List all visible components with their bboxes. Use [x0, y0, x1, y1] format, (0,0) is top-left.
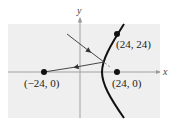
- point-left-focus: [41, 69, 47, 75]
- label-left-focus: (−24, 0): [24, 77, 60, 90]
- point-curve: [114, 31, 120, 37]
- label-curve-point: (24, 24): [116, 38, 151, 51]
- label-right-focus: (24, 0): [112, 77, 142, 90]
- x-axis-label: x: [162, 66, 168, 77]
- point-right-focus: [114, 69, 120, 75]
- y-axis-label: y: [76, 5, 82, 16]
- hyperbola-diagram: x y (−24, 0) (24, 0) (24, 24): [0, 0, 174, 127]
